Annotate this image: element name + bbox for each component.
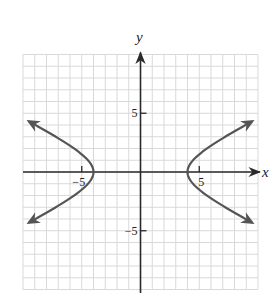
y-tick-label: −5	[125, 224, 138, 238]
y-tick-label: 5	[132, 106, 138, 120]
x-axis-label: x	[261, 164, 269, 180]
y-axis-label: y	[134, 29, 143, 45]
hyperbola-graph: −555−5 x y	[0, 0, 277, 293]
x-tick-label: 5	[198, 175, 204, 189]
